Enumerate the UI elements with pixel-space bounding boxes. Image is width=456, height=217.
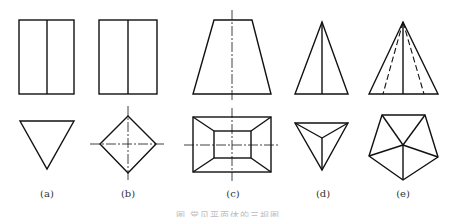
top-view-a <box>20 121 74 169</box>
label-c: (c) <box>213 188 253 199</box>
figure-d <box>295 22 348 170</box>
figure-e <box>369 22 438 180</box>
figure-b <box>90 20 166 181</box>
label-b: (b) <box>108 188 148 199</box>
label-e: (e) <box>383 188 423 199</box>
label-d: (d) <box>303 188 343 199</box>
projection-diagram <box>0 0 456 217</box>
figure-caption: 图 常见平面体的三视图 <box>0 209 456 217</box>
figure-a <box>19 20 74 169</box>
label-a: (a) <box>27 188 67 199</box>
figure-c <box>184 10 280 181</box>
